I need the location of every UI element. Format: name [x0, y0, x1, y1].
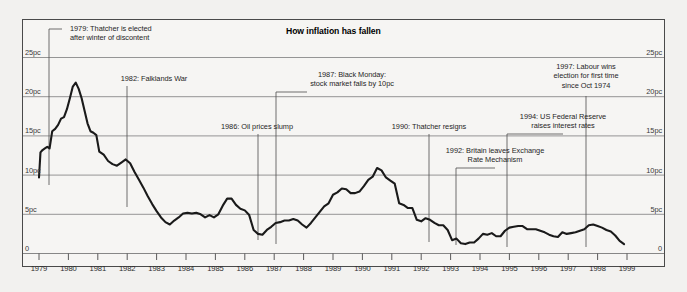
chart-canvas: [0, 0, 687, 292]
x-tick-label-1994: 1994: [466, 264, 494, 273]
annotation-thatcher-elected: 1979: Thatcher is electedafter winter of…: [70, 24, 152, 43]
annotation-oil-prices-slump: 1986: Oil prices slump: [185, 122, 329, 131]
annotation-falklands-war: 1982: Falklands War: [94, 74, 214, 83]
annotation-line: 1982: Falklands War: [94, 74, 214, 83]
annotation-line: since Oct 1974: [516, 81, 656, 90]
x-tick-label-1982: 1982: [113, 264, 141, 273]
x-tick-label-1991: 1991: [378, 264, 406, 273]
x-tick-label-1979: 1979: [25, 264, 53, 273]
annotation-line: 1987: Black Monday:: [276, 70, 428, 79]
x-tick-label-1980: 1980: [54, 264, 82, 273]
x-tick-label-1985: 1985: [201, 264, 229, 273]
annotation-thatcher-resigns: 1990: Thatcher resigns: [359, 122, 499, 131]
annotation-line: 1992: Britain leaves Exchange: [413, 146, 577, 155]
y-tick-label-right-0: 0: [636, 244, 662, 253]
annotation-line: 1986: Oil prices slump: [185, 122, 329, 131]
annotation-line: stock market falls by 10pc: [276, 79, 428, 88]
x-tick-label-1989: 1989: [319, 264, 347, 273]
x-tick-label-1988: 1988: [290, 264, 318, 273]
x-tick-label-1986: 1986: [231, 264, 259, 273]
annotation-line: Rate Mechanism: [413, 155, 577, 164]
x-tick-label-1987: 1987: [260, 264, 288, 273]
x-tick-label-1993: 1993: [437, 264, 465, 273]
x-tick-label-1984: 1984: [172, 264, 200, 273]
y-tick-label-left-5pc: 5pc: [25, 205, 37, 214]
x-tick-label-1997: 1997: [554, 264, 582, 273]
x-tick-label-1998: 1998: [584, 264, 612, 273]
x-axis-ticks: [39, 254, 627, 261]
annotation-black-monday: 1987: Black Monday:stock market falls by…: [276, 70, 428, 89]
annotation-britain-leaves-erm: 1992: Britain leaves ExchangeRate Mechan…: [413, 146, 577, 165]
annotation-line: 1990: Thatcher resigns: [359, 122, 499, 131]
x-tick-label-1995: 1995: [495, 264, 523, 273]
y-tick-label-right-15pc: 15pc: [636, 126, 662, 135]
inflation-chart-figure: How inflation has fallen 05pc10pc15pc20p…: [0, 0, 687, 292]
y-tick-label-right-10pc: 10pc: [636, 166, 662, 175]
annotation-line: election for first time: [516, 71, 656, 80]
annotation-labour-wins: 1997: Labour winselection for first time…: [516, 62, 656, 90]
y-tick-label-left-15pc: 15pc: [25, 126, 41, 135]
annotation-line: 1979: Thatcher is elected: [70, 24, 152, 33]
annotation-line: after winter of discontent: [70, 33, 152, 42]
annotation-line: 1994: US Federal Reserve: [487, 112, 639, 121]
x-tick-label-1990: 1990: [348, 264, 376, 273]
x-tick-label-1996: 1996: [525, 264, 553, 273]
y-tick-label-left-20pc: 20pc: [25, 87, 41, 96]
x-tick-label-1992: 1992: [407, 264, 435, 273]
x-tick-label-1983: 1983: [143, 264, 171, 273]
annotation-line: raises interest rates: [487, 121, 639, 130]
annotation-us-federal-reserve: 1994: US Federal Reserveraises interest …: [487, 112, 639, 131]
chart-title: How inflation has fallen: [286, 26, 381, 36]
y-tick-label-right-25pc: 25pc: [636, 48, 662, 57]
annotation-line: 1997: Labour wins: [516, 62, 656, 71]
x-tick-label-1999: 1999: [613, 264, 641, 273]
y-tick-label-left-0: 0: [25, 244, 29, 253]
x-tick-label-1981: 1981: [84, 264, 112, 273]
y-tick-label-left-10pc: 10pc: [25, 166, 41, 175]
y-tick-label-left-25pc: 25pc: [25, 48, 41, 57]
y-tick-label-right-5pc: 5pc: [636, 205, 662, 214]
